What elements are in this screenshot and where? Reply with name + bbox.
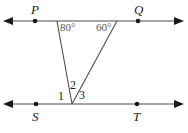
angle-label-2: 2 [70, 79, 76, 91]
diagram-canvas [0, 0, 188, 133]
point-p [33, 19, 38, 24]
arrowhead-right-bottom [174, 100, 184, 108]
arrowhead-left-bottom [3, 100, 13, 108]
point-label-p: P [31, 3, 39, 16]
point-label-t: T [133, 110, 140, 123]
point-t [135, 102, 140, 107]
point-label-s: S [32, 110, 39, 123]
point-q [136, 19, 141, 24]
angle-label-3: 3 [79, 89, 85, 101]
angle-label-60-degrees: 60° [96, 22, 111, 33]
arrowhead-right-top [174, 17, 184, 25]
point-s [34, 102, 39, 107]
angle-label-1: 1 [58, 90, 64, 102]
point-label-q: Q [134, 3, 143, 16]
geometry-diagram: P Q S T 80° 60° 1 2 3 [0, 0, 188, 133]
angle-label-80-degrees: 80° [60, 22, 75, 33]
arrowhead-left-top [3, 17, 13, 25]
